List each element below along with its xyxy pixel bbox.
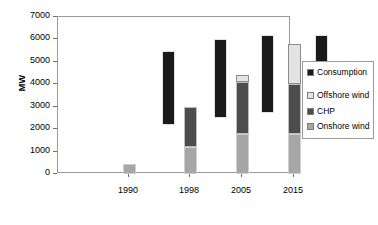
legend-item: CHP [307, 106, 335, 117]
y-axis-tick-label: 7000 [16, 11, 50, 20]
y-axis-tick-label: 5000 [16, 56, 50, 65]
legend-label: Onshore wind [317, 122, 369, 131]
bar-segment [288, 84, 301, 133]
legend-swatch-icon [307, 92, 314, 99]
y-axis-tick-label: 0 [16, 168, 50, 177]
x-axis-tick-label: 1998 [167, 186, 211, 195]
bar-segment [214, 39, 227, 118]
legend-label: CHP [317, 107, 335, 116]
legend-swatch-icon [307, 123, 314, 130]
y-axis-tick-label: 4000 [16, 78, 50, 87]
bar-segment [184, 107, 197, 147]
legend-label: Offshore wind [317, 91, 369, 100]
bar-segment [236, 82, 249, 134]
bar-segment [236, 75, 249, 82]
x-axis-tick-label: 1990 [106, 186, 150, 195]
bar-segment [288, 44, 301, 84]
chart-root: MW 0100020003000400050006000700019901998… [0, 0, 378, 225]
bar-segment [184, 147, 197, 174]
y-axis-tick-label: 6000 [16, 33, 50, 42]
x-axis-tick-label: 2015 [271, 186, 315, 195]
legend-swatch-icon [307, 69, 314, 76]
legend-item: Onshore wind [307, 121, 369, 132]
y-axis-tick-label: 2000 [16, 123, 50, 132]
legend-swatch-icon [307, 108, 314, 115]
bar-segment [162, 51, 175, 125]
plot-area [57, 16, 290, 173]
bar-segment [288, 134, 301, 174]
x-axis-tick-label: 2005 [219, 186, 263, 195]
legend-label: Consumption [317, 68, 367, 77]
legend-item: Consumption [307, 67, 367, 78]
legend-item: Offshore wind [307, 90, 369, 101]
legend: ConsumptionOffshore windCHPOnshore wind [302, 61, 374, 139]
y-axis-tick-mark [53, 173, 57, 174]
bar-segment [236, 134, 249, 174]
bars-container [58, 17, 289, 172]
bar-segment [261, 35, 274, 114]
bar-segment [123, 164, 136, 174]
y-axis-tick-label: 1000 [16, 146, 50, 155]
y-axis-tick-label: 3000 [16, 101, 50, 110]
